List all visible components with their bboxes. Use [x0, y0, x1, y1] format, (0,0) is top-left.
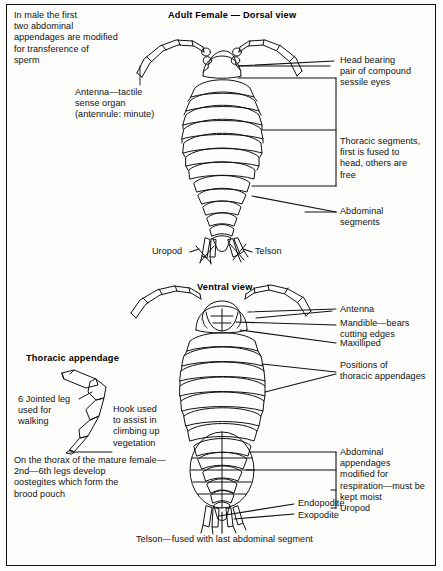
figure-page: Adult Female — Dorsal view Ventral view …: [0, 0, 443, 571]
label-antenna-dorsal: Antenna—tactile sense organ (antennule: …: [75, 87, 154, 121]
label-positions-thoracic-appendages: Positions of thoracic appendages: [340, 360, 425, 382]
label-uropod-ventral: Uropod: [340, 503, 370, 514]
label-uropod-dorsal: Uropod: [152, 246, 182, 257]
label-telson-dorsal: Telson: [255, 246, 282, 257]
label-abdominal-segments: Abdominal segments: [340, 206, 383, 228]
label-jointed-leg: 6 Jointed leg used for walking: [18, 394, 70, 428]
dorsal-view-title: Adult Female — Dorsal view: [168, 10, 296, 21]
label-telson-ventral: Telson—fused with last abdominal segment: [136, 534, 313, 545]
label-thoracic-segments: Thoracic segments, first is fused to hea…: [340, 136, 420, 181]
label-male-abdominal-appendages: In male the first two abdominal appendag…: [14, 10, 118, 66]
label-exopodite: Exopodite: [298, 510, 339, 521]
thoracic-appendage-title: Thoracic appendage: [26, 353, 119, 364]
label-hook: Hook used to assist in climbing up veget…: [113, 404, 160, 449]
label-head: Head bearing pair of compound sessile ey…: [340, 55, 411, 89]
label-abdominal-appendages: Abdominal appendages modified for respir…: [340, 447, 425, 503]
label-maxilliped: Maxilliped: [340, 338, 381, 349]
label-brood-pouch: On the thorax of the mature female— 2nd—…: [14, 455, 166, 500]
ventral-view-title: Ventral view: [197, 282, 253, 293]
label-antenna-ventral: Antenna: [340, 304, 374, 315]
label-endopodite: Endopodite: [298, 498, 345, 509]
